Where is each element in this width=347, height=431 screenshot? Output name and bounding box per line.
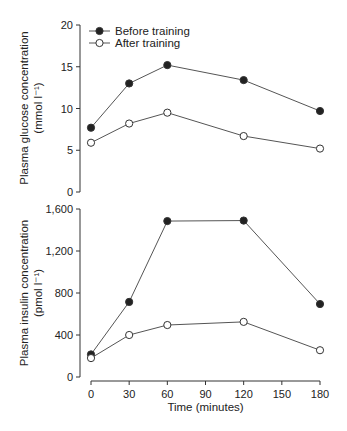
open-circle-marker (126, 120, 133, 127)
insulin-panel: 04008001,2001,600Plasma insulin concentr… (18, 203, 329, 413)
filled-circle-marker (164, 217, 171, 224)
series-line (91, 113, 320, 149)
filled-circle-marker (87, 124, 94, 131)
y-tick-label: 1,200 (45, 245, 73, 257)
y-tick-label: 20 (61, 19, 73, 31)
x-tick-label: 0 (88, 388, 94, 400)
y-tick-label: 0 (67, 371, 73, 383)
open-circle-marker (126, 331, 133, 338)
x-tick-label: 90 (199, 388, 211, 400)
series-line (91, 322, 320, 358)
y-axis-label: Plasma insulin concentration (18, 220, 30, 366)
x-tick-label: 180 (311, 388, 329, 400)
y-tick-label: 10 (61, 103, 73, 115)
y-tick-label: 0 (67, 186, 73, 198)
open-circle-marker (240, 132, 247, 139)
filled-circle-marker (240, 77, 247, 84)
chart-figure: 05101520Plasma glucose concentration(mmo… (0, 0, 347, 431)
open-circle-marker (164, 109, 171, 116)
filled-circle-marker (164, 61, 171, 68)
legend-filled-marker (96, 27, 103, 34)
filled-circle-marker (126, 298, 133, 305)
filled-circle-marker (240, 217, 247, 224)
glucose-panel: 05101520Plasma glucose concentration(mmo… (18, 19, 324, 198)
y-tick-label: 1,600 (45, 203, 73, 215)
x-tick-label: 30 (123, 388, 135, 400)
x-tick-label: 120 (234, 388, 252, 400)
y-tick-label: 800 (55, 287, 73, 299)
open-circle-marker (240, 318, 247, 325)
legend-label: After training (115, 37, 180, 49)
legend: Before trainingAfter training (89, 25, 190, 49)
filled-circle-marker (316, 107, 323, 114)
legend-open-marker (96, 39, 103, 46)
open-circle-marker (164, 321, 171, 328)
y-tick-label: 400 (55, 329, 73, 341)
y-axis-units: (mmol l⁻¹) (32, 82, 44, 134)
y-tick-label: 15 (61, 61, 73, 73)
y-axis-units: (pmol l⁻¹) (32, 269, 44, 317)
open-circle-marker (87, 139, 94, 146)
filled-circle-marker (316, 300, 323, 307)
filled-circle-marker (126, 80, 133, 87)
open-circle-marker (87, 355, 94, 362)
open-circle-marker (316, 347, 323, 354)
legend-label: Before training (115, 25, 190, 37)
open-circle-marker (316, 145, 323, 152)
y-tick-label: 5 (67, 144, 73, 156)
x-axis-label: Time (minutes) (167, 401, 243, 413)
x-tick-label: 150 (273, 388, 291, 400)
x-tick-label: 60 (161, 388, 173, 400)
y-axis-label: Plasma glucose concentration (18, 31, 30, 184)
series-line (91, 65, 320, 128)
